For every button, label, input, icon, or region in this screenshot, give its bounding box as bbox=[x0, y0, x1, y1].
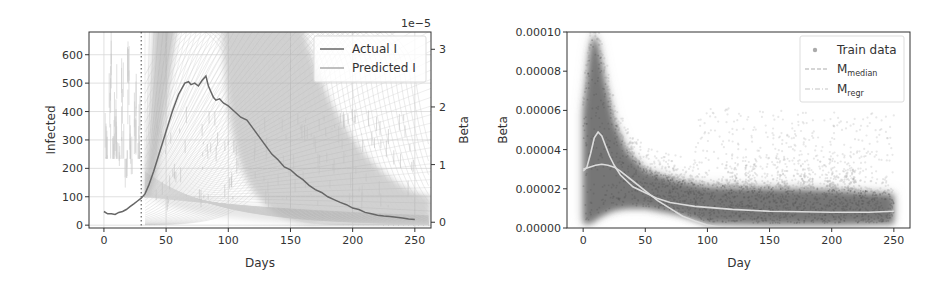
svg-text:0.00006: 0.00006 bbox=[516, 104, 562, 117]
svg-text:0: 0 bbox=[439, 216, 446, 229]
svg-text:2: 2 bbox=[439, 101, 446, 114]
right-chart: 050100150200250 0.000000.000020.000040.0… bbox=[496, 11, 910, 270]
svg-text:600: 600 bbox=[62, 49, 83, 62]
svg-text:150: 150 bbox=[280, 234, 301, 247]
svg-text:0.00000: 0.00000 bbox=[516, 222, 562, 235]
svg-text:0: 0 bbox=[100, 234, 107, 247]
left-y-ticks: 0100200300400500600 bbox=[62, 49, 89, 232]
svg-text:50: 50 bbox=[159, 234, 173, 247]
left-legend: Actual I Predicted I bbox=[314, 36, 426, 82]
svg-text:150: 150 bbox=[759, 234, 780, 247]
svg-text:500: 500 bbox=[62, 77, 83, 90]
svg-text:100: 100 bbox=[218, 234, 239, 247]
left-right-y-axis-label: Beta bbox=[457, 116, 471, 144]
svg-text:0.00010: 0.00010 bbox=[516, 26, 562, 39]
right-x-ticks: 050100150200250 bbox=[580, 228, 905, 247]
svg-text:100: 100 bbox=[697, 234, 718, 247]
legend-predicted-label: Predicted I bbox=[352, 61, 416, 75]
right-legend: Train data Mmedian Mregr bbox=[800, 36, 904, 102]
svg-text:0.00008: 0.00008 bbox=[516, 65, 562, 78]
svg-text:0: 0 bbox=[580, 234, 587, 247]
right-y-ticks: 0.000000.000020.000040.000060.000080.000… bbox=[516, 26, 568, 235]
svg-text:0: 0 bbox=[76, 219, 83, 232]
left-y-axis-label: Infected bbox=[44, 105, 58, 154]
svg-text:300: 300 bbox=[62, 134, 83, 147]
right-x-axis-label: Day bbox=[727, 256, 751, 270]
svg-text:200: 200 bbox=[62, 162, 83, 175]
left-chart: 050100150200250 0100200300400500600 0123… bbox=[44, 0, 565, 270]
svg-text:3: 3 bbox=[439, 43, 446, 56]
svg-text:50: 50 bbox=[638, 234, 652, 247]
legend-train-label: Train data bbox=[836, 43, 897, 57]
svg-text:0.00004: 0.00004 bbox=[516, 144, 562, 157]
svg-text:100: 100 bbox=[62, 191, 83, 204]
left-x-ticks: 050100150200250 bbox=[100, 228, 425, 247]
left-x-axis-label: Days bbox=[245, 256, 275, 270]
figure-canvas: 050100150200250 0100200300400500600 0123… bbox=[0, 0, 945, 283]
figure: 050100150200250 0100200300400500600 0123… bbox=[0, 0, 945, 283]
svg-text:200: 200 bbox=[821, 234, 842, 247]
left-right-y-ticks: 0123 bbox=[431, 43, 446, 229]
svg-text:0.00002: 0.00002 bbox=[516, 183, 562, 196]
svg-text:400: 400 bbox=[62, 106, 83, 119]
svg-text:1: 1 bbox=[439, 159, 446, 172]
svg-text:250: 250 bbox=[883, 234, 904, 247]
legend-actual-label: Actual I bbox=[352, 42, 397, 56]
legend-train-marker bbox=[813, 48, 817, 52]
svg-text:250: 250 bbox=[404, 234, 425, 247]
left-offset-text: 1e−5 bbox=[401, 17, 431, 30]
svg-text:200: 200 bbox=[342, 234, 363, 247]
right-y-axis-label: Beta bbox=[496, 116, 510, 144]
